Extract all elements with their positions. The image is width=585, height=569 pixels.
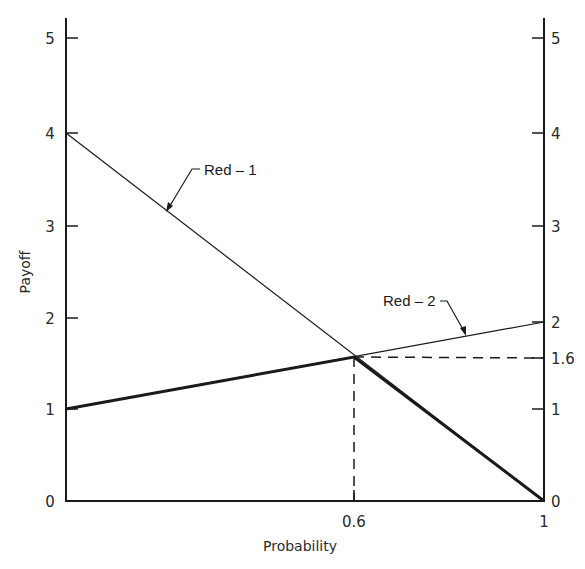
right-tick-0: 0: [551, 493, 561, 511]
left-tick-0: 0: [45, 493, 55, 511]
red-1-leader: [168, 169, 200, 209]
red-1-label: Red – 1: [204, 161, 257, 178]
left-tick-1: 1: [45, 401, 55, 419]
right-tick-1.6: 1.6: [551, 350, 575, 368]
right-tick-1: 1: [551, 401, 561, 419]
red-2-label: Red – 2: [383, 292, 436, 309]
left-tick-3: 3: [45, 218, 55, 236]
left-tick-5: 5: [45, 30, 55, 48]
right-tick-3: 3: [551, 218, 561, 236]
x-tick-label-1: 1: [539, 513, 549, 531]
right-ticks: [532, 38, 544, 409]
x-axis-title: Probability: [263, 538, 337, 554]
right-tick-5: 5: [551, 30, 561, 48]
right-tick-4: 4: [551, 125, 561, 143]
left-tick-4: 4: [45, 125, 55, 143]
x-tick-label-0.6: 0.6: [342, 513, 366, 531]
right-tick-2: 2: [551, 314, 561, 332]
y-axis-title: Payoff: [17, 250, 33, 293]
dashed-horizontal-1.6: [354, 357, 544, 358]
lower-envelope: [66, 357, 544, 501]
left-ticks: [66, 38, 78, 409]
payoff-chart: 0 1 2 3 4 5 0 1 1.6 2 3 4 5 0.6 1 Probab…: [0, 0, 585, 569]
red-2-arrowhead: [460, 326, 466, 336]
left-tick-2: 2: [45, 310, 55, 328]
